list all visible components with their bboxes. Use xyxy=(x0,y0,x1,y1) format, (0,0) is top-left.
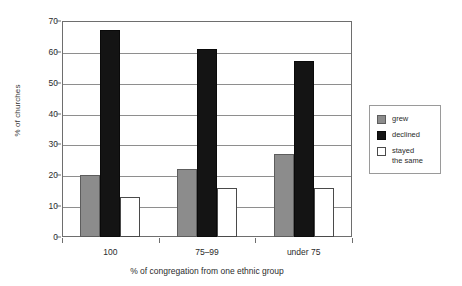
bar-stayed-2 xyxy=(314,188,334,237)
y-tick-mark xyxy=(56,21,61,22)
y-tick-mark xyxy=(56,51,61,52)
y-tick-label: 20 xyxy=(2,170,58,180)
y-tick-label: 10 xyxy=(2,201,58,211)
x-tick-mark xyxy=(255,238,256,243)
y-tick-label: 50 xyxy=(2,78,58,88)
y-tick-label: 30 xyxy=(2,139,58,149)
stayed-swatch-icon xyxy=(377,147,386,156)
y-tick-mark xyxy=(56,144,61,145)
y-tick-label: 0 xyxy=(2,232,58,242)
declined-swatch-icon xyxy=(377,131,386,140)
y-tick-mark xyxy=(56,113,61,114)
x-axis-title: % of congregation from one ethnic group xyxy=(62,266,352,276)
legend-item-stayed: stayed the same xyxy=(377,146,434,165)
bar-declined-2 xyxy=(294,61,314,237)
chart-legend: grew declined stayed the same xyxy=(369,105,441,174)
y-tick-mark xyxy=(56,237,61,238)
x-tick-mark xyxy=(352,238,353,243)
bar-declined-0 xyxy=(100,30,120,237)
x-tick-mark xyxy=(159,238,160,243)
y-tick-mark xyxy=(56,206,61,207)
legend-item-declined: declined xyxy=(377,130,434,140)
x-tick-mark xyxy=(62,238,63,243)
x-tick-label: 100 xyxy=(55,247,165,257)
bar-grew-0 xyxy=(80,175,100,237)
grew-swatch-icon xyxy=(377,115,386,124)
legend-label-stayed: stayed the same xyxy=(392,146,423,165)
y-tick-label: 70 xyxy=(2,16,58,26)
bar-declined-1 xyxy=(197,49,217,237)
x-tick-label: 75–99 xyxy=(152,247,262,257)
legend-label-grew: grew xyxy=(392,114,408,124)
bar-stayed-0 xyxy=(120,197,140,237)
bar-grew-2 xyxy=(274,154,294,237)
legend-item-grew: grew xyxy=(377,114,434,124)
y-tick-mark xyxy=(56,175,61,176)
bar-grew-1 xyxy=(177,169,197,237)
bar-stayed-1 xyxy=(217,188,237,237)
y-tick-label: 60 xyxy=(2,47,58,57)
bars-layer xyxy=(62,21,352,237)
bar-chart: % of churches 010203040506070 10075–99un… xyxy=(0,0,462,286)
x-tick-label: under 75 xyxy=(249,247,359,257)
y-tick-mark xyxy=(56,82,61,83)
legend-label-declined: declined xyxy=(392,130,420,140)
y-tick-label: 40 xyxy=(2,109,58,119)
